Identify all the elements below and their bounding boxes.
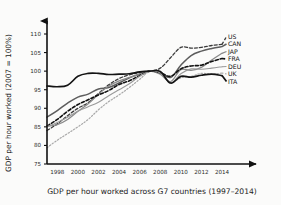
y-tick-label: 110 [30,31,41,37]
series-lines [47,44,222,147]
legend-leader-jap [222,52,227,54]
x-tick-label: 2004 [112,169,127,175]
y-tick-label: 95 [34,87,42,93]
axes [47,21,256,164]
legend-label-deu: DEU [228,63,241,70]
chart-figure: 1101051009590858075 19982000200220042006… [0,0,281,205]
x-tick-label: 2008 [153,169,168,175]
legend-leader-us [222,37,227,45]
series-line-jap [47,53,222,126]
legend-leader-ita [222,76,227,82]
series-line-us [47,44,222,130]
y-tick-label: 85 [34,124,42,130]
x-axis-ticks: 199820002002200420062008201020122014 [50,169,229,175]
legend-label-ita: ITA [228,78,238,85]
legend: USCANJAPFRADEUUKITA [222,33,242,85]
series-line-uk [47,71,222,148]
x-tick-label: 1998 [50,169,65,175]
chart-caption: GDP per hour worked across G7 countries … [47,187,257,196]
x-tick-label: 2002 [91,169,105,175]
y-axis-title: GDP per hour worked (2007 = 100%) [4,34,13,172]
x-tick-label: 2000 [71,169,86,175]
y-axis-ticks: 1101051009590858075 [30,31,47,167]
y-tick-label: 100 [30,68,41,74]
legend-label-us: US [228,33,237,40]
legend-label-can: CAN [228,40,242,47]
y-tick-label: 75 [34,161,42,167]
x-tick-label: 2010 [174,169,189,175]
legend-leader-uk [222,73,227,74]
x-tick-label: 2012 [194,169,208,175]
line-chart: 1101051009590858075 19982000200220042006… [0,0,281,205]
y-tick-label: 105 [30,50,41,56]
x-tick-label: 2006 [133,169,148,175]
y-tick-label: 90 [34,105,42,111]
legend-label-uk: UK [228,70,238,77]
legend-label-fra: FRA [228,55,241,62]
x-tick-label: 2014 [215,169,230,175]
y-tick-label: 80 [34,142,42,148]
